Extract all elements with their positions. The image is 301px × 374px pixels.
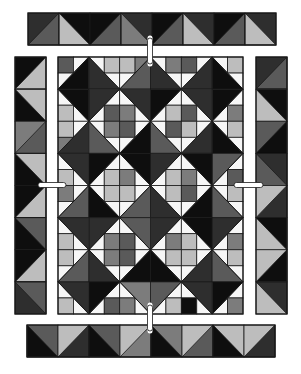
- center-cell: [104, 298, 119, 314]
- center-cell: [120, 57, 135, 73]
- center-cell: [120, 169, 135, 185]
- center-cell: [104, 169, 119, 185]
- center-cell: [228, 105, 243, 121]
- center-cell: [104, 234, 119, 250]
- center-cell: [166, 250, 181, 266]
- center-cell: [120, 298, 135, 314]
- right-connector-icon: [234, 183, 263, 188]
- center-cell: [120, 234, 135, 250]
- center-cell: [181, 250, 196, 266]
- center-cell: [228, 121, 243, 137]
- center-cell: [181, 298, 196, 314]
- center-cell: [166, 186, 181, 202]
- center-cell: [181, 121, 196, 137]
- center-cell: [120, 186, 135, 202]
- center-cell: [120, 105, 135, 121]
- center-cell: [166, 57, 181, 73]
- center-cell: [120, 121, 135, 137]
- center-cell: [104, 57, 119, 73]
- center-cell: [228, 250, 243, 266]
- center-cell: [58, 121, 73, 137]
- center-cell: [181, 169, 196, 185]
- quilt-assembly-diagram: [0, 0, 301, 374]
- center-cell: [228, 57, 243, 73]
- center-cell: [181, 105, 196, 121]
- center-cell: [104, 105, 119, 121]
- center-cell: [166, 234, 181, 250]
- center-cell: [228, 234, 243, 250]
- center-cell: [58, 250, 73, 266]
- bottom-connector-icon: [148, 305, 153, 331]
- center-cell: [104, 250, 119, 266]
- center-cell: [58, 186, 73, 202]
- left-connector-icon: [38, 183, 66, 188]
- center-cell: [181, 234, 196, 250]
- center-cell: [104, 121, 119, 137]
- center-cell: [166, 298, 181, 314]
- center-cell: [58, 234, 73, 250]
- center-cell: [228, 186, 243, 202]
- center-cell: [104, 186, 119, 202]
- top-connector-icon: [148, 38, 153, 64]
- center-cell: [166, 169, 181, 185]
- center-cell: [181, 57, 196, 73]
- center-cell: [166, 105, 181, 121]
- center-cell: [166, 121, 181, 137]
- center-cell: [181, 186, 196, 202]
- center-cell: [58, 57, 73, 73]
- center-cell: [228, 298, 243, 314]
- center-cell: [58, 298, 73, 314]
- quilt-center: [58, 57, 243, 314]
- center-cell: [120, 250, 135, 266]
- center-cell: [58, 105, 73, 121]
